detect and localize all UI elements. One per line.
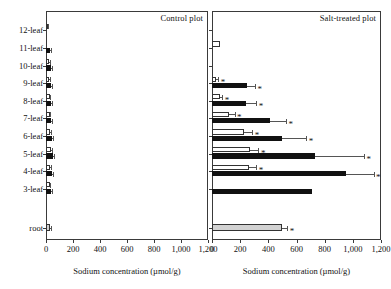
error-bar [247,86,255,87]
bar-rows-salt: ************* [212,11,381,240]
x-tick-label: 1,000 [171,244,190,254]
bar-salt-treated-11-leaf-leaf-sheath [212,41,220,46]
x-axis-title-salt: Sodium concentration (µmol/g) [212,266,381,277]
bar-salt-treated-5-leaf-leaf-sheath [212,147,250,152]
x-axis-salt: 02004006008001,0001,200 [212,240,381,266]
error-bar-cap [50,60,51,65]
y-axis-label-11-leaf: 11-leaf [0,43,43,53]
x-tick [208,240,209,243]
error-bar [244,132,252,133]
y-tick [209,66,212,67]
y-axis-label-5-leaf: 5-leaf [0,149,43,159]
y-axis-label-6-leaf: 6-leaf [0,131,43,141]
bar-salt-treated-9-leaf-leaf-blade [212,83,247,88]
bar-salt-treated-6-leaf-leaf-blade [212,136,282,141]
error-bar [346,174,374,175]
y-tick [43,30,46,31]
x-axis-control: 02004006008001,0001,200 [46,240,208,266]
x-tick [154,240,155,243]
x-tick [240,240,241,243]
error-bar [246,103,257,104]
significance-marker: * [259,104,264,109]
x-tick-label: 0 [210,244,214,254]
x-tick-label: 800 [318,244,331,254]
error-bar-cap [51,165,52,170]
y-axis-label-12-leaf: 12-leaf [0,25,43,35]
error-bar-cap [256,165,257,170]
bar-control-5-leaf-leaf-blade [46,153,53,158]
x-tick [46,240,47,243]
y-axis-label-3-leaf: 3-leaf [0,184,43,194]
error-bar-cap [50,95,51,100]
error-bar-cap [52,189,53,194]
bar-salt-treated-6-leaf-leaf-sheath [212,129,244,134]
x-tick-label: 600 [290,244,303,254]
error-bar-cap [52,148,53,153]
x-tick [73,240,74,243]
panel-salt-treated-plot: Salt-treated plot ************* [212,11,381,240]
error-bar-cap [222,95,223,100]
significance-marker: * [290,229,295,234]
figure-sodium-concentration: 12-leaf11-leaf10-leaf9-leaf8-leaf7-leaf6… [0,0,391,289]
bar-salt-treated-3-leaf-leaf-blade [212,189,312,194]
x-tick [381,240,382,243]
bar-rows-control [46,11,208,240]
error-bar-cap [53,172,54,177]
x-tick-label: 400 [262,244,275,254]
x-tick-label: 1,200 [371,244,390,254]
error-bar-cap [374,172,375,177]
x-tick-label: 200 [67,244,80,254]
bar-salt-treated-4-leaf-leaf-blade [212,171,346,176]
error-bar-cap [53,136,54,141]
error-bar-cap [52,84,53,89]
x-tick-label: 400 [94,244,107,254]
y-axis-label-8-leaf: 8-leaf [0,96,43,106]
y-axis-label-4-leaf: 4-leaf [0,166,43,176]
x-tick-label: 200 [234,244,247,254]
error-bar-cap [50,77,51,82]
error-bar-cap [287,226,288,231]
error-bar [249,167,256,168]
bar-salt-treated-4-leaf-leaf-sheath [212,165,249,170]
x-tick [212,240,213,243]
y-tick [209,30,212,31]
error-bar-cap [51,226,52,231]
error-bar-cap [52,66,53,71]
significance-marker: * [376,175,381,180]
error-bar [250,150,258,151]
y-axis-category-labels: 12-leaf11-leaf10-leaf9-leaf8-leaf7-leaf6… [0,11,46,240]
x-tick [353,240,354,243]
error-bar [282,138,306,139]
error-bar-cap [306,136,307,141]
x-tick-label: 1,000 [343,244,362,254]
error-bar-cap [51,130,52,135]
error-bar-cap [256,101,257,106]
x-axis-title-control: Sodium concentration (µmol/g) [46,266,208,277]
y-axis-label-root: root [0,223,43,233]
bar-salt-treated-7-leaf-leaf-sheath [212,112,229,117]
error-bar-cap [51,48,52,53]
error-bar-cap [52,119,53,124]
bar-salt-treated-5-leaf-leaf-blade [212,153,315,158]
error-bar-cap [252,130,253,135]
error-bar-cap [255,84,256,89]
significance-marker: * [309,139,314,144]
error-bar-cap [48,24,49,29]
bar-salt-treated-7-leaf-leaf-blade [212,118,270,123]
significance-marker: * [288,122,293,127]
error-bar [315,156,364,157]
x-tick [127,240,128,243]
error-bar-cap [286,119,287,124]
panel-control-plot: Control plot [46,11,208,240]
error-bar-cap [50,112,51,117]
error-bar [270,121,286,122]
error-bar-cap [235,112,236,117]
error-bar-cap [52,101,53,106]
bar-salt-treated-8-leaf-leaf-blade [212,101,246,106]
y-axis-label-7-leaf: 7-leaf [0,113,43,123]
x-tick [268,240,269,243]
x-tick [325,240,326,243]
x-tick-label: 600 [121,244,134,254]
x-tick [297,240,298,243]
error-bar-cap [50,183,51,188]
